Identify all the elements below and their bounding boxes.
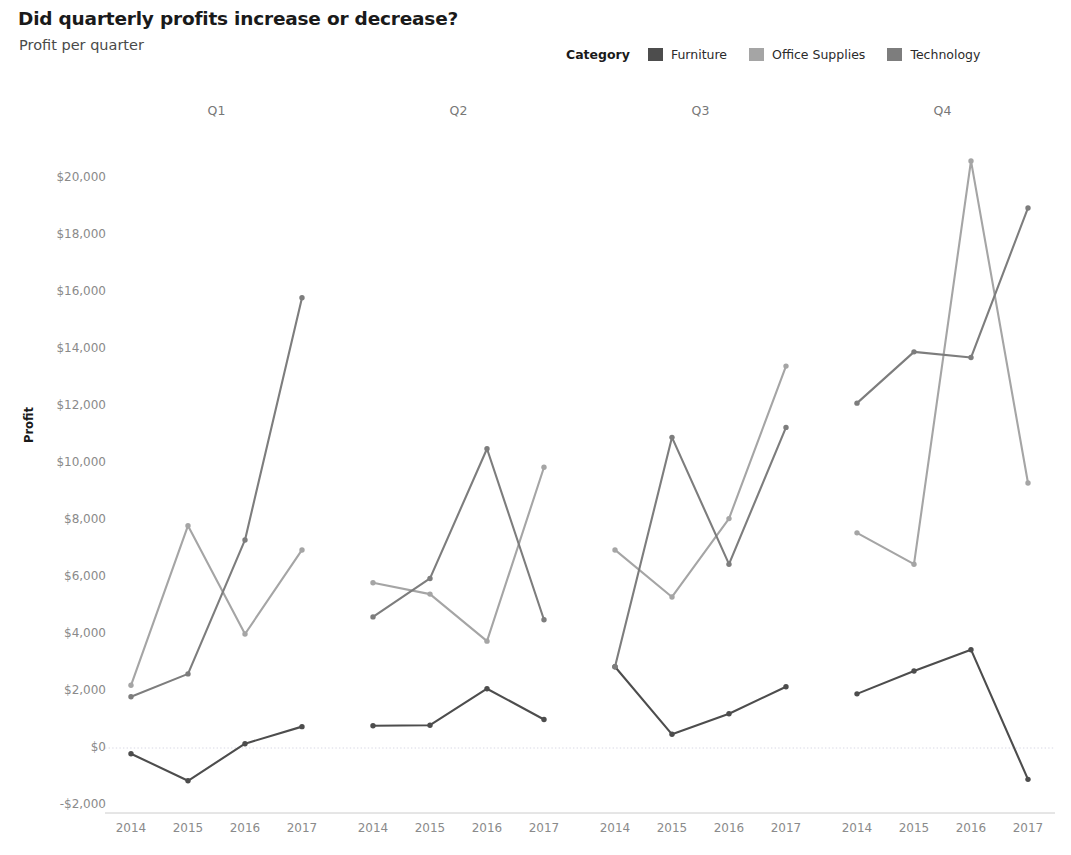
data-point[interactable] [128,751,133,756]
data-point[interactable] [669,594,674,599]
data-point[interactable] [185,523,190,528]
data-point[interactable] [370,580,375,585]
data-point[interactable] [911,561,916,566]
visualization-canvas: Did quarterly profits increase or decrea… [0,0,1071,855]
data-point[interactable] [185,778,190,783]
data-point[interactable] [541,617,546,622]
data-point[interactable] [612,547,617,552]
data-point[interactable] [726,561,731,566]
series-line-technology [131,298,302,697]
data-point[interactable] [541,717,546,722]
data-point[interactable] [370,723,375,728]
series-line-furniture [131,727,302,781]
series-line-technology [857,208,1028,403]
data-point[interactable] [370,614,375,619]
series-line-office-supplies [373,467,544,641]
data-point[interactable] [1025,777,1030,782]
data-point[interactable] [783,363,788,368]
data-point[interactable] [242,631,247,636]
data-point[interactable] [1025,205,1030,210]
data-point[interactable] [128,694,133,699]
data-point[interactable] [427,723,432,728]
data-point[interactable] [968,355,973,360]
data-point[interactable] [911,349,916,354]
data-point[interactable] [484,686,489,691]
data-point[interactable] [726,516,731,521]
data-point[interactable] [783,684,788,689]
data-point[interactable] [669,435,674,440]
data-point[interactable] [783,425,788,430]
series-line-technology [373,449,544,620]
line-chart-plot [0,0,1071,855]
data-point[interactable] [242,537,247,542]
data-point[interactable] [1025,480,1030,485]
series-line-furniture [857,650,1028,780]
series-line-office-supplies [857,161,1028,564]
series-line-furniture [615,667,786,735]
data-point[interactable] [968,647,973,652]
data-point[interactable] [669,732,674,737]
data-point[interactable] [612,664,617,669]
data-point[interactable] [427,576,432,581]
series-line-furniture [373,689,544,726]
data-point[interactable] [541,465,546,470]
data-point[interactable] [299,547,304,552]
data-point[interactable] [427,591,432,596]
data-point[interactable] [484,446,489,451]
data-point[interactable] [185,671,190,676]
data-point[interactable] [911,668,916,673]
data-point[interactable] [854,691,859,696]
data-point[interactable] [726,711,731,716]
data-point[interactable] [128,683,133,688]
data-point[interactable] [299,724,304,729]
data-point[interactable] [484,638,489,643]
series-line-technology [615,427,786,666]
data-point[interactable] [854,530,859,535]
data-point[interactable] [299,295,304,300]
data-point[interactable] [854,400,859,405]
data-point[interactable] [968,158,973,163]
data-point[interactable] [242,741,247,746]
